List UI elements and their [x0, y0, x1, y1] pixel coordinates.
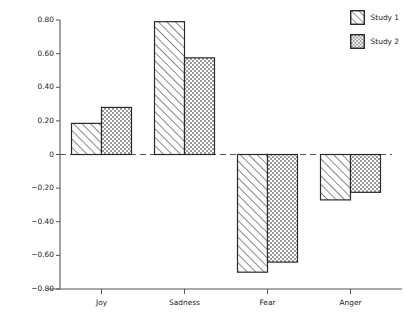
bar-chart: Deviation from the mean 0.800.600.400.20… — [0, 0, 405, 322]
bar-fear-study-2 — [268, 155, 298, 263]
bars-layer — [60, 22, 392, 273]
bar-sadness-study-1 — [155, 22, 185, 155]
legend-label: Study 2 — [371, 37, 399, 46]
plot-area — [0, 0, 405, 322]
bar-joy-study-2 — [102, 107, 132, 154]
legend-item-study-1: Study 1 — [350, 10, 399, 25]
bar-fear-study-1 — [238, 155, 268, 273]
legend-swatch-study-1 — [350, 10, 365, 25]
bar-sadness-study-2 — [185, 58, 215, 155]
bar-anger-study-1 — [321, 155, 351, 200]
legend-item-study-2: Study 2 — [350, 34, 399, 49]
bar-joy-study-1 — [72, 123, 102, 154]
bar-anger-study-2 — [351, 155, 381, 193]
legend-swatch-study-2 — [350, 34, 365, 49]
legend-label: Study 1 — [371, 13, 399, 22]
legend: Study 1Study 2 — [350, 10, 399, 49]
